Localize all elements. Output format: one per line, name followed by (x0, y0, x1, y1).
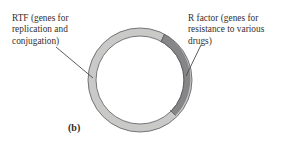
panel-letter: (b) (68, 122, 80, 133)
leader-line-rtf (56, 47, 93, 78)
plasmid-diagram-figure: RTF (genes for replication and conjugati… (0, 0, 299, 153)
rtf-label: RTF (genes for replication and conjugati… (12, 13, 108, 47)
r-factor-label: R factor (genes for resistance to variou… (188, 13, 296, 47)
